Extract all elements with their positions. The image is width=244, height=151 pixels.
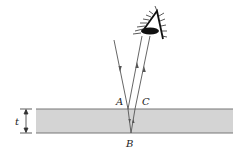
thin-film-diagram: t A [0,0,244,151]
thickness-marker [20,109,32,133]
arrow-incident [119,66,122,72]
eye-icon [133,6,167,39]
label-C: C [142,96,150,107]
reflected-ray-A [128,36,142,109]
thickness-label: t [15,116,20,127]
label-B: B [125,138,133,149]
label-A: A [115,96,123,107]
